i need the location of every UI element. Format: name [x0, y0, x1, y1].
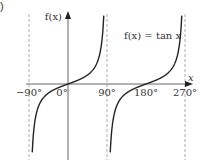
y-axis-arrow-icon	[65, 11, 71, 19]
y-axis-label: f(x)	[45, 11, 62, 22]
x-tick-label: 90°	[98, 87, 116, 98]
x-tick-label: 270°	[173, 87, 197, 98]
x-tick-label: 180°	[134, 87, 158, 98]
x-tick-labels: −90°0°90°180°270°	[16, 87, 197, 98]
tan-graph: ) x f(x) −90°0°90°180°270° f(x) = tan x	[0, 0, 205, 164]
x-tick-label: −90°	[16, 87, 42, 98]
panel-label: )	[0, 0, 4, 12]
x-axis-label: x	[188, 72, 194, 83]
x-tick-label: 0°	[56, 87, 67, 98]
function-label: f(x) = tan x	[124, 30, 181, 41]
